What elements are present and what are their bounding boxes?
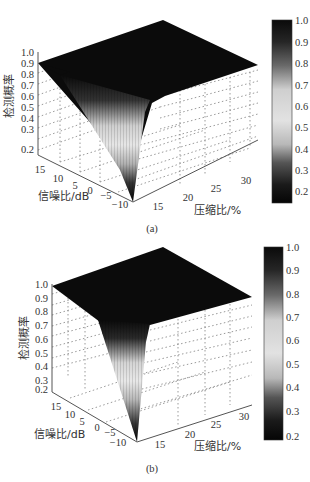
cb-tick: 0.4: [295, 144, 309, 155]
z-tick: 0.4: [35, 361, 49, 372]
x-tick: 15: [153, 201, 164, 212]
cb-tick: 0.5: [286, 359, 299, 370]
panel-a: 1.0 0.9 0.8 0.7 0.6 0.5 0.4 0.3 0.2 检测概率…: [2, 15, 309, 235]
cb-tick: 0.8: [286, 289, 299, 300]
colorbar-ticks-b: 1.0 0.9 0.8 0.7 0.6 0.5 0.4 0.3 0.2: [286, 242, 300, 442]
z-tick: 0.9: [35, 293, 48, 304]
x-tick: 30: [241, 175, 252, 186]
panel-b: 1.0 0.9 0.8 0.7 0.6 0.5 0.4 0.3 0.2 检测概率…: [17, 242, 300, 475]
z-ticks-a: 1.0 0.9 0.8 0.7 0.6 0.5 0.4 0.3 0.2: [21, 47, 35, 155]
x-tick: 30: [239, 411, 250, 422]
x-tick: 25: [211, 419, 222, 430]
y-tick: 15: [35, 164, 46, 175]
z-tick: 0.6: [35, 334, 48, 345]
z-tick: 0.2: [21, 144, 34, 155]
cb-tick: 0.9: [295, 37, 308, 48]
z-tick: 0.8: [35, 306, 48, 317]
surface-plateau-b: [52, 247, 252, 325]
cb-tick: 1.0: [295, 15, 308, 26]
y-tick: −5: [100, 190, 111, 201]
y-tick: 10: [53, 173, 64, 184]
caption-b: (b): [146, 463, 159, 475]
x-tick: 25: [211, 183, 222, 194]
figure: 1.0 0.9 0.8 0.7 0.6 0.5 0.4 0.3 0.2 检测概率…: [0, 0, 310, 482]
y-axis-label-b: 信噪比/dB: [34, 428, 85, 441]
caption-a: (a): [146, 223, 158, 235]
z-tick: 0.5: [21, 102, 34, 113]
y-tick: −10: [112, 199, 128, 210]
colorbar-b: [264, 247, 283, 440]
z-tick: 0.7: [35, 320, 48, 331]
cb-tick: 0.6: [295, 101, 308, 112]
z-tick: 0.2: [35, 384, 48, 395]
y-tick: 0: [94, 422, 99, 433]
cb-tick: 0.2: [286, 431, 299, 442]
z-axis-label-a: 检测概率: [2, 74, 16, 118]
cb-tick: 0.5: [295, 122, 308, 133]
cb-tick: 0.2: [295, 186, 308, 197]
cb-tick: 1.0: [286, 242, 299, 253]
z-tick: 0.4: [21, 113, 35, 124]
z-tick: 0.8: [21, 69, 34, 80]
cb-tick: 0.4: [286, 382, 300, 393]
y-ticks-a: 15 10 5 0 −5 −10: [35, 164, 128, 210]
cb-tick: 0.3: [295, 165, 308, 176]
z-tick: 0.7: [21, 80, 34, 91]
z-tick: 0.3: [21, 124, 34, 135]
cb-tick: 0.8: [295, 58, 308, 69]
cb-tick: 0.6: [286, 335, 299, 346]
z-tick: 0.9: [21, 58, 34, 69]
z-tick: 0.6: [21, 91, 34, 102]
z-tick: 1.0: [35, 279, 48, 290]
colorbar-a: [272, 20, 292, 203]
x-tick: 20: [183, 192, 194, 203]
y-tick: −10: [110, 437, 126, 448]
y-tick: 10: [65, 409, 76, 420]
y-axis-label-a: 信噪比/dB: [38, 190, 89, 203]
cb-tick: 0.7: [286, 312, 299, 323]
z-tick: 0.5: [35, 348, 48, 359]
x-tick: 20: [185, 429, 196, 440]
z-tick: 1.0: [21, 47, 34, 58]
y-tick: 5: [79, 416, 84, 427]
z-axis-label-b: 检测概率: [17, 316, 31, 360]
x-axis-label-a: 压缩比/%: [194, 204, 241, 217]
z-ticks-b: 1.0 0.9 0.8 0.7 0.6 0.5 0.4 0.3 0.2: [35, 279, 49, 395]
cb-tick: 0.9: [286, 265, 299, 276]
cb-tick: 0.7: [295, 80, 308, 91]
x-tick: 15: [155, 439, 166, 450]
colorbar-ticks-a: 1.0 0.9 0.8 0.7 0.6 0.5 0.4 0.3 0.2: [295, 15, 309, 197]
x-axis-label-b: 压缩比/%: [194, 440, 241, 453]
cb-tick: 0.3: [286, 406, 299, 417]
y-tick: 15: [51, 401, 62, 412]
